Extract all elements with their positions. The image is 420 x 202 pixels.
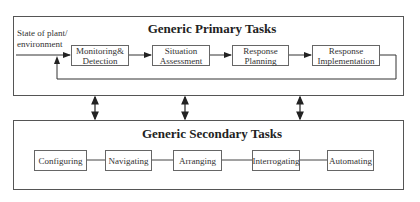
primary-tasks-title: Generic Primary Tasks [140, 21, 284, 37]
box-label-line1: Situation [160, 46, 203, 56]
box-label-line1: Monitoring& [76, 46, 124, 56]
box-label-line2: Planning [243, 56, 278, 66]
automating-box: Automating [327, 150, 374, 171]
box-label-line2: Detection [76, 56, 124, 66]
arranging-box: Arranging [173, 150, 222, 171]
box-label-line1: Response [243, 46, 278, 56]
input-label-line2: environment [17, 39, 68, 50]
situation-assessment-box: SituationAssessment [152, 45, 210, 66]
monitoring-detection-box: Monitoring&Detection [71, 45, 129, 66]
box-label-line1: Response [318, 46, 375, 56]
box-label-line2: Implementation [318, 56, 375, 66]
configuring-box: Configuring [34, 150, 87, 171]
box-label-line2: Assessment [160, 56, 203, 66]
input-label: State of plant/ environment [17, 28, 68, 50]
secondary-tasks-title: Generic Secondary Tasks [130, 126, 294, 142]
response-planning-box: ResponsePlanning [232, 45, 289, 66]
input-label-line1: State of plant/ [17, 28, 68, 39]
navigating-box: Navigating [105, 150, 152, 171]
interrogating-box: Interrogating [252, 150, 300, 171]
response-implementation-box: ResponseImplementation [312, 45, 380, 66]
